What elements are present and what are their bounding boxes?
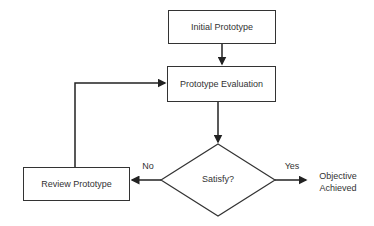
prototype-evaluation-label: Prototype Evaluation <box>180 79 263 89</box>
prototype-evaluation-node: Prototype Evaluation <box>167 66 276 102</box>
initial-prototype-label: Initial Prototype <box>191 22 253 32</box>
review-prototype-node: Review Prototype <box>23 167 130 201</box>
objective-label-line2: Achieved <box>310 182 366 194</box>
review-prototype-label: Review Prototype <box>41 179 112 189</box>
decision-label: Satisfy? <box>188 173 248 185</box>
edge-label-yes: Yes <box>280 160 304 172</box>
arrow-review-to-evaluation <box>75 83 165 167</box>
initial-prototype-node: Initial Prototype <box>168 10 276 44</box>
objective-label-line1: Objective <box>310 170 366 182</box>
edge-label-no: No <box>138 160 158 172</box>
objective-achieved-node: Objective Achieved <box>310 170 366 194</box>
